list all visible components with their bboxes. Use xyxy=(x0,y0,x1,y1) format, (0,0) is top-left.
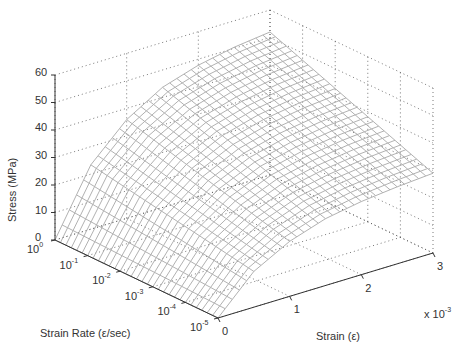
x-tick-label: 2 xyxy=(365,283,371,294)
x-axis-label: Strain (ε) xyxy=(316,331,360,342)
y-axis-label: Strain Rate (ε/sec) xyxy=(40,328,131,339)
z-tick-label: 40 xyxy=(35,122,47,133)
z-tick-label: 10 xyxy=(35,205,47,216)
x-tick-label: 1 xyxy=(294,304,300,315)
z-tick-label: 20 xyxy=(35,177,47,188)
z-tick-label: 50 xyxy=(35,95,47,106)
y-tick-label: 10-1 xyxy=(60,258,78,271)
y-tick-label: 10-2 xyxy=(92,273,110,286)
surface-plot xyxy=(0,0,465,361)
z-axis-label: Stress (MPa) xyxy=(6,158,18,222)
y-tick-label: 10-4 xyxy=(157,304,175,317)
z-tick-label: 60 xyxy=(35,67,47,78)
stress-surface-mesh xyxy=(55,32,433,318)
y-tick-label: 10-5 xyxy=(190,320,208,333)
x-tick-label: 3 xyxy=(437,261,443,272)
z-tick-label: 30 xyxy=(35,150,47,161)
x-axis-multiplier: x 10-3 xyxy=(424,307,451,320)
y-tick-label: 100 xyxy=(27,242,43,255)
y-tick-label: 10-3 xyxy=(125,289,143,302)
x-tick-label: 0 xyxy=(222,326,228,337)
